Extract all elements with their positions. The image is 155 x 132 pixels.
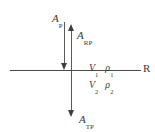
reflected-ray-label: ARP bbox=[77, 26, 92, 45]
incident-ray-symbol: A bbox=[52, 12, 59, 24]
incident-ray-arrowhead-icon bbox=[61, 63, 67, 70]
upper-medium-properties: V1ρ1 bbox=[89, 58, 113, 77]
incident-ray-subscript: P bbox=[59, 22, 63, 30]
lower-medium-velocity-subscript: 2 bbox=[95, 88, 98, 95]
transmitted-ray-label: ATP bbox=[79, 110, 94, 129]
incident-ray-shaft bbox=[64, 22, 65, 66]
transmitted-ray-subscript: TP bbox=[86, 123, 94, 131]
lower-medium-properties: V2ρ2 bbox=[89, 75, 113, 94]
reflected-ray-arrowhead-icon bbox=[68, 24, 74, 31]
transmitted-ray-shaft bbox=[71, 71, 72, 112]
incident-ray-label: AP bbox=[52, 9, 63, 28]
reflected-ray-subscript: RP bbox=[84, 39, 93, 47]
reflected-ray-symbol: A bbox=[77, 29, 84, 41]
axis-label-r: R bbox=[143, 63, 150, 74]
interface-line bbox=[10, 70, 141, 71]
transmitted-ray-symbol: A bbox=[79, 113, 86, 125]
reflected-ray-shaft bbox=[71, 27, 72, 70]
transmitted-ray-arrowhead-icon bbox=[68, 110, 74, 117]
seismic-ray-diagram: AP ARP ATP V1ρ1 V2ρ2 R bbox=[0, 0, 155, 132]
lower-medium-density-subscript: 2 bbox=[110, 88, 113, 95]
